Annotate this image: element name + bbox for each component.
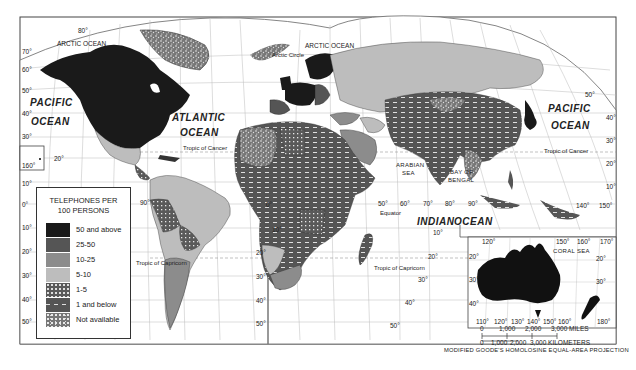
io-lat-10: 10° — [433, 229, 443, 236]
east-lat-50: 50° — [585, 91, 595, 98]
arctic-circle-label: Arctic Circle — [272, 52, 304, 58]
mid-lat-0: 0° — [266, 201, 272, 208]
pacific-ocean-west-label-2: OCEAN — [31, 116, 70, 127]
legend-label: 5-10 — [76, 270, 91, 279]
lat-0-label: 0° — [22, 201, 28, 208]
projection-label: MODIFIED GOODE'S HOMOLOSINE EQUAL-AREA P… — [444, 347, 629, 353]
pacific-ocean-east-label: PACIFIC — [548, 103, 591, 114]
tropic-of-capricorn-east-label: Tropic of Capricorn — [374, 265, 425, 271]
scale-miles-0: 0 — [480, 325, 484, 332]
legend-swatch — [46, 298, 70, 312]
mid-lat-40: 40° — [256, 297, 266, 304]
east-lon-140: 140° — [576, 202, 589, 209]
io-lon-60: 60° — [400, 200, 410, 207]
scale-km-0: 0 — [480, 339, 484, 346]
legend-swatch — [46, 238, 70, 252]
aus-bottom-130: 130° — [511, 318, 524, 325]
aus-bottom-180: 180° — [597, 318, 610, 325]
lat-s20-label: 20° — [22, 248, 32, 255]
scale-km-3000: 3,000 KILOMETERS — [530, 339, 590, 346]
coral-sea-label: CORAL SEA — [553, 248, 590, 254]
scale-km-1000: 1,000 — [491, 339, 507, 346]
legend-title: TELEPHONES PER 100 PERSONS — [37, 196, 130, 216]
tropic-of-capricorn-west-label: Tropic of Capricorn — [136, 260, 187, 266]
legend-item: 50 and above — [46, 223, 130, 237]
io-lon-90: 90° — [468, 200, 478, 207]
aus-lat-40: 40° — [469, 300, 479, 307]
legend-label: 50 and above — [76, 225, 121, 234]
lat-30-label: 30° — [22, 133, 32, 140]
scale-km-2000: 2,000 — [510, 339, 526, 346]
lat-40-label: 40° — [22, 110, 32, 117]
aus-top-170: 170° — [600, 238, 613, 245]
aus-lat-30: 30° — [469, 276, 479, 283]
indian-ocean-label: INDIAN — [417, 216, 454, 227]
lat-10-label: 10° — [22, 180, 32, 187]
sa-lon-90-label: 90° — [140, 199, 150, 206]
lat-s50-label: 50° — [22, 318, 32, 325]
scale-miles-2000: 2,000 — [525, 325, 541, 332]
legend-title-line1: TELEPHONES PER — [37, 196, 130, 206]
arabian-sea-label: ARABIAN — [396, 162, 424, 168]
east-lat-10: 10° — [606, 183, 616, 190]
lat-60-label: 60° — [22, 66, 32, 73]
lat-s10-label: 10° — [22, 224, 32, 231]
aus-bottom-120: 120° — [494, 318, 507, 325]
legend-swatch — [46, 283, 70, 297]
bay-of-bengal-label: BAY OF — [450, 169, 473, 175]
aus-bottom-150: 150° — [543, 318, 556, 325]
legend-item: 1-5 — [46, 283, 130, 297]
io-lat-20: 20° — [428, 253, 438, 260]
mid-lat-50: 50° — [256, 320, 266, 327]
lat-50-label: 50° — [22, 87, 32, 94]
lat-s40-label: 40° — [22, 296, 32, 303]
aus-top-150: 150° — [556, 238, 569, 245]
bay-of-bengal-label-2: BENGAL — [448, 177, 474, 183]
legend-item: Not available — [46, 313, 130, 327]
east-lon-150: 150° — [599, 202, 612, 209]
aus-lat-r-30: 30° — [596, 278, 606, 285]
aus-lat-20: 20° — [469, 253, 479, 260]
mid-lat-30: 30° — [256, 273, 266, 280]
io-lon-70: 70° — [423, 200, 433, 207]
legend-swatch — [46, 253, 70, 267]
scale-miles-3000: 3,000 MILES — [551, 325, 589, 332]
legend-item: 10-25 — [46, 253, 130, 267]
pacific-ocean-east-label-2: OCEAN — [551, 120, 590, 131]
aus-top-160: 160° — [577, 238, 590, 245]
east-lat-40: 40° — [606, 114, 616, 121]
legend-label: Not available — [76, 315, 119, 324]
io-lat-40: 40° — [405, 299, 415, 306]
legend-label: 10-25 — [76, 255, 95, 264]
legend-label: 1 and below — [76, 300, 116, 309]
mid-lat-20: 20° — [256, 249, 266, 256]
arctic-ocean-east-label: ARCTIC OCEAN — [305, 42, 354, 49]
io-lat-30: 30° — [418, 276, 428, 283]
pacific-ocean-west-label: PACIFIC — [30, 97, 73, 108]
hawaii-lon-label: 160° — [22, 162, 35, 169]
legend-swatch — [46, 223, 70, 237]
arabian-sea-label-2: SEA — [402, 170, 415, 176]
lat-70-label: 70° — [22, 48, 32, 55]
scale-miles-1000: 1,000 — [499, 325, 515, 332]
legend-item: 5-10 — [46, 268, 130, 282]
io-lat-50: 50° — [390, 322, 400, 329]
atlantic-ocean-label-2: OCEAN — [180, 127, 219, 138]
arctic-ocean-west-label: ARCTIC OCEAN — [57, 40, 106, 47]
legend-item: 25-50 — [46, 238, 130, 252]
atlantic-ocean-label: ATLANTIC — [172, 112, 225, 123]
tropic-of-cancer-east-label: Tropic of Cancer — [544, 148, 588, 154]
legend-title-line2: 100 PERSONS — [37, 206, 130, 216]
east-lat-20: 20° — [606, 160, 616, 167]
legend-label: 25-50 — [76, 240, 95, 249]
legend: TELEPHONES PER 100 PERSONS 50 and above … — [36, 187, 131, 339]
lon-80-label: 80° — [78, 27, 88, 34]
equator-label: Equator — [380, 210, 401, 216]
io-lon-50: 50° — [378, 200, 388, 207]
aus-bottom-110: 110° — [476, 318, 489, 325]
aus-bottom-140: 140° — [527, 318, 540, 325]
tropic-of-cancer-west-label: Tropic of Cancer — [183, 145, 227, 151]
legend-item: 1 and below — [46, 298, 130, 312]
east-lat-30: 30° — [606, 137, 616, 144]
legend-swatch — [46, 313, 70, 327]
